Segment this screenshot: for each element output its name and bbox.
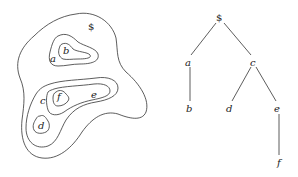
tree-node-d: d [226, 103, 232, 114]
containment-tree: $ a c b d e f [185, 12, 283, 168]
tree-edge-c-e [256, 67, 276, 101]
tree-node-b: b [186, 103, 192, 114]
nested-regions-and-tree-diagram: $ a b c d e f $ a c b d e f [0, 0, 298, 177]
region-label-b: b [63, 45, 69, 56]
region-dollar-contour [18, 13, 147, 158]
tree-node-f: f [276, 157, 283, 168]
tree-edge-dollar-c [224, 23, 251, 55]
tree-edge-c-d [232, 67, 251, 101]
region-label-f: f [56, 91, 63, 102]
tree-node-dollar: $ [216, 12, 222, 23]
tree-node-c: c [250, 57, 256, 68]
region-f-contour [53, 91, 69, 106]
region-label-c: c [40, 95, 46, 106]
region-label-a: a [50, 53, 56, 64]
tree-edge-dollar-a [191, 23, 216, 55]
tree-node-e: e [274, 103, 280, 114]
region-a-contour [49, 34, 98, 66]
region-label-e: e [91, 89, 97, 100]
tree-node-a: a [185, 57, 191, 68]
region-label-d: d [38, 120, 44, 131]
region-label-dollar: $ [88, 21, 94, 32]
region-c-contour [26, 77, 118, 147]
region-diagram: $ a b c d e f [18, 13, 147, 158]
